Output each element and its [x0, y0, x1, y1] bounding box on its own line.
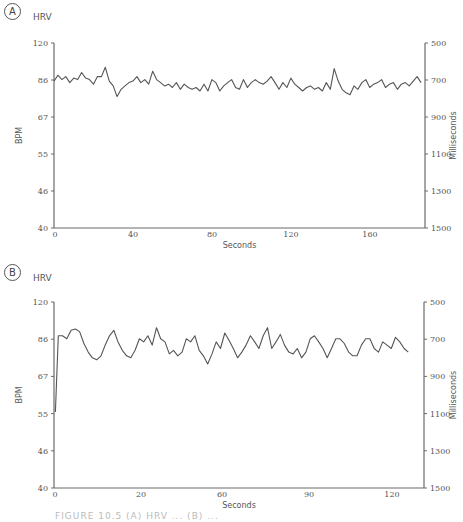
x-tick: 160 — [362, 230, 377, 239]
x-axis-label: Seconds — [222, 501, 256, 510]
y-tick-right: 900 — [430, 372, 445, 381]
y-tick-right: 700 — [431, 76, 446, 85]
y-tick-right: 500 — [430, 298, 445, 307]
y-tick-left: 86 — [38, 76, 48, 85]
x-tick: 120 — [384, 490, 399, 499]
y-tick-right: 500 — [431, 39, 446, 48]
x-tick: 60 — [217, 490, 227, 499]
hrv-charts: 1205008670067900551100461300401500040801… — [0, 0, 463, 522]
y-tick-left: 40 — [38, 484, 48, 493]
y-axis-label-left: BPM — [15, 127, 24, 144]
hrv-trace — [55, 328, 408, 412]
y-tick-left: 40 — [38, 224, 48, 233]
y-tick-left: 46 — [38, 447, 48, 456]
y-tick-right: 1300 — [431, 187, 451, 196]
y-tick-left: 120 — [33, 39, 48, 48]
x-tick: 80 — [207, 230, 217, 239]
y-tick-left: 67 — [38, 113, 48, 122]
y-axis-label-right: Milliseconds — [449, 111, 458, 160]
x-tick: 20 — [136, 490, 146, 499]
x-tick: 0 — [52, 490, 57, 499]
y-tick-right: 1500 — [431, 224, 451, 233]
y-tick-right: 900 — [431, 113, 446, 122]
y-axis-label-right: Milliseconds — [449, 371, 458, 420]
x-tick: 120 — [283, 230, 298, 239]
y-tick-right: 1100 — [430, 410, 450, 419]
y-axis-label-left: BPM — [15, 386, 24, 403]
x-axis-label: Seconds — [223, 241, 257, 250]
x-tick: 0 — [52, 230, 57, 239]
y-tick-left: 55 — [38, 150, 48, 159]
x-tick: 40 — [128, 230, 138, 239]
y-tick-left: 46 — [38, 187, 48, 196]
y-tick-right: 1500 — [430, 484, 450, 493]
y-tick-left: 120 — [33, 298, 48, 307]
x-tick: 90 — [304, 490, 314, 499]
y-tick-right: 700 — [430, 335, 445, 344]
figure-caption: FIGURE 10.5 (A) HRV ... (B) ... — [55, 511, 219, 521]
y-tick-left: 86 — [38, 335, 48, 344]
y-tick-left: 55 — [38, 410, 48, 419]
y-tick-right: 1300 — [430, 447, 450, 456]
hrv-trace — [54, 67, 421, 96]
y-tick-left: 67 — [38, 372, 48, 381]
